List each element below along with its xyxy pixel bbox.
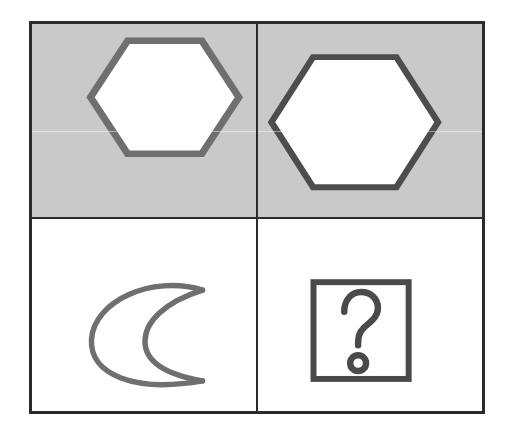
small-hexagon-icon [32, 24, 256, 217]
matrix-cell-top-left[interactable] [32, 24, 257, 218]
matrix-cell-bottom-right[interactable] [257, 218, 482, 412]
matrix-grid [29, 21, 485, 414]
matrix-cell-bottom-left[interactable] [32, 218, 257, 412]
analogy-puzzle-root [0, 0, 508, 439]
crescent-icon [32, 219, 256, 412]
answer-placeholder-icon [258, 219, 482, 412]
large-hexagon-icon [258, 24, 482, 217]
matrix-cell-top-right[interactable] [257, 24, 482, 218]
